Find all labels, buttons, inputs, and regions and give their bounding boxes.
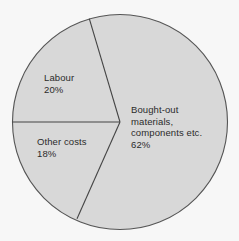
pie-chart-figure: Labour 20% Other costs 18% Bought-out ma… [0,0,239,241]
pie-label-labour: Labour 20% [44,72,74,95]
pie-chart-graphic [0,0,239,241]
pie-label-other-costs: Other costs 18% [37,136,87,159]
pie-label-bought-out-materials: Bought-out materials, components etc. 62… [131,104,202,150]
